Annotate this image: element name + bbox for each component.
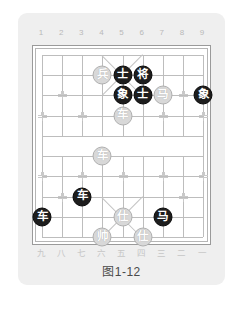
piece-label: 仕	[117, 211, 128, 223]
piece-label: 仕	[137, 231, 148, 243]
piece-black-车[interactable]: 车	[73, 187, 92, 206]
river-band	[43, 137, 203, 156]
position-marker	[179, 193, 188, 202]
file-label-top-8: 8	[175, 26, 189, 40]
piece-label: 车	[77, 190, 88, 202]
piece-black-士[interactable]: 士	[133, 86, 152, 105]
file-label-bottom-9: 一	[195, 246, 209, 260]
position-marker	[199, 112, 208, 121]
position-marker	[199, 172, 208, 181]
position-marker	[179, 91, 188, 100]
piece-red-兵[interactable]: 兵	[93, 66, 112, 85]
piece-black-马[interactable]: 马	[153, 207, 172, 226]
grid-vline	[203, 55, 204, 237]
file-label-bottom-7: 三	[155, 246, 169, 260]
piece-red-马[interactable]: 马	[153, 86, 172, 105]
file-label-bottom-3: 七	[74, 246, 88, 260]
file-label-bottom-8: 二	[175, 246, 189, 260]
file-label-bottom-4: 六	[94, 246, 108, 260]
piece-label: 帅	[97, 231, 108, 243]
piece-red-帅[interactable]: 帅	[93, 228, 112, 247]
piece-black-将[interactable]: 将	[133, 66, 152, 85]
file-label-bottom-6: 四	[135, 246, 149, 260]
piece-label: 车	[117, 110, 128, 122]
piece-label: 车	[97, 150, 108, 162]
piece-label: 马	[157, 89, 168, 101]
piece-black-士[interactable]: 士	[113, 66, 132, 85]
piece-label: 士	[117, 69, 128, 81]
piece-label: 士	[137, 89, 148, 101]
file-label-top-1: 1	[34, 26, 48, 40]
figure-caption: 图1-12	[0, 262, 243, 279]
file-label-top-2: 2	[54, 26, 68, 40]
file-label-top-7: 7	[155, 26, 169, 40]
grid-hline	[42, 237, 203, 238]
file-label-top-9: 9	[195, 26, 209, 40]
file-label-bottom-5: 五	[115, 246, 129, 260]
position-marker	[38, 172, 47, 181]
file-label-bottom-2: 八	[54, 246, 68, 260]
piece-label: 将	[137, 69, 148, 81]
piece-red-车[interactable]: 车	[113, 106, 132, 125]
piece-label: 车	[37, 211, 48, 223]
piece-red-仕[interactable]: 仕	[113, 207, 132, 226]
file-label-top-5: 5	[115, 26, 129, 40]
board-frame: 兵士将象士马象车车车车仕马帅仕	[32, 45, 211, 245]
piece-label: 象	[117, 89, 128, 101]
piece-label: 马	[157, 211, 168, 223]
position-marker	[58, 91, 67, 100]
position-marker	[38, 112, 47, 121]
position-marker	[78, 112, 87, 121]
position-marker	[78, 172, 87, 181]
file-label-bottom-1: 九	[34, 246, 48, 260]
piece-red-车[interactable]: 车	[93, 147, 112, 166]
piece-black-象[interactable]: 象	[194, 86, 213, 105]
file-label-top-6: 6	[135, 26, 149, 40]
piece-red-仕[interactable]: 仕	[133, 228, 152, 247]
position-marker	[58, 193, 67, 202]
file-labels-top: 123456789	[32, 26, 211, 40]
grid-vline	[82, 55, 83, 136]
file-label-top-4: 4	[94, 26, 108, 40]
piece-black-车[interactable]: 车	[33, 207, 52, 226]
position-marker	[159, 112, 168, 121]
position-marker	[159, 172, 168, 181]
piece-black-象[interactable]: 象	[113, 86, 132, 105]
position-marker	[119, 172, 128, 181]
file-labels-bottom: 九八七六五四三二一	[32, 246, 211, 260]
xiangqi-diagram: 123456789 兵士将象士马象车车车车仕马帅仕 九八七六五四三二一 图1-1…	[0, 0, 243, 310]
file-label-top-3: 3	[74, 26, 88, 40]
piece-label: 兵	[97, 69, 108, 81]
piece-label: 象	[198, 89, 209, 101]
